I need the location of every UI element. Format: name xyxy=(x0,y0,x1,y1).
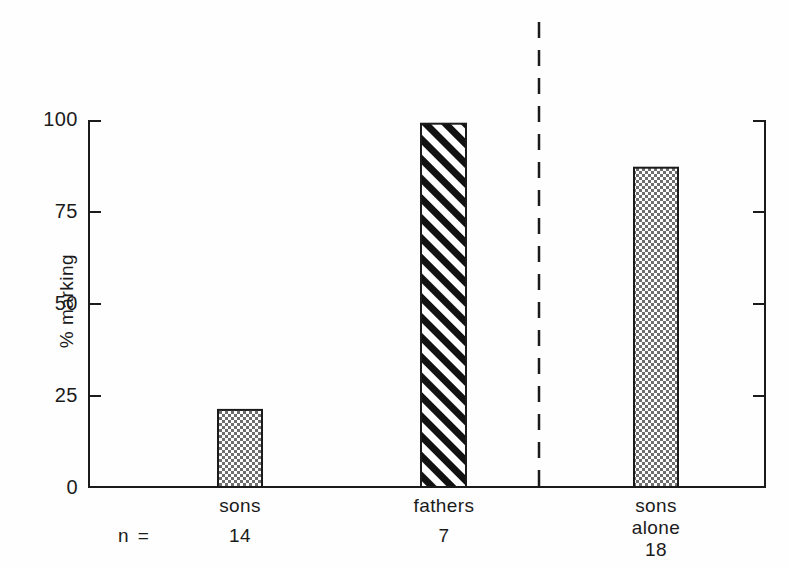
n-value-sons-alone: 18 xyxy=(596,539,716,561)
n-value-sons: 14 xyxy=(180,525,300,547)
y-axis-title: % marking xyxy=(56,221,78,381)
n-equals-label: n = xyxy=(118,525,151,547)
bar-sons xyxy=(218,410,262,487)
ytick-label-75: 75 xyxy=(0,200,78,223)
right-axis xyxy=(753,120,765,488)
bar-chart-figure: 100 75 50 25 0 % marking sons fathers so… xyxy=(0,0,789,569)
ytick-label-100: 100 xyxy=(0,108,78,131)
bar-sons-alone xyxy=(634,168,678,487)
category-label-sons: sons xyxy=(180,495,300,517)
category-label-sons-alone-line1: sons xyxy=(596,495,716,517)
bar-fathers xyxy=(421,124,466,487)
n-value-fathers: 7 xyxy=(384,525,504,547)
category-label-sons-alone-line2: alone xyxy=(596,517,716,539)
ytick-label-0: 0 xyxy=(0,476,78,499)
chart-canvas xyxy=(0,0,789,569)
category-label-fathers: fathers xyxy=(384,495,504,517)
y-axis xyxy=(89,120,101,487)
ytick-label-25: 25 xyxy=(0,384,78,407)
